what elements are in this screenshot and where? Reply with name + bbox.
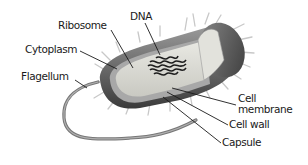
label-capsule: Capsule: [222, 137, 261, 148]
label-cell-wall: Cell wall: [229, 119, 269, 130]
label-flagellum: Flagellum: [21, 71, 69, 82]
label-cell-membrane-line2: membrane: [238, 104, 292, 115]
label-dna: DNA: [130, 11, 152, 22]
label-ribosome: Ribosome: [58, 20, 107, 31]
label-cytoplasm: Cytoplasm: [25, 44, 77, 55]
bacterium-diagram: Ribosome DNA Cytoplasm Flagellum Cell me…: [0, 0, 308, 165]
bacterium-illustration: [0, 0, 308, 165]
